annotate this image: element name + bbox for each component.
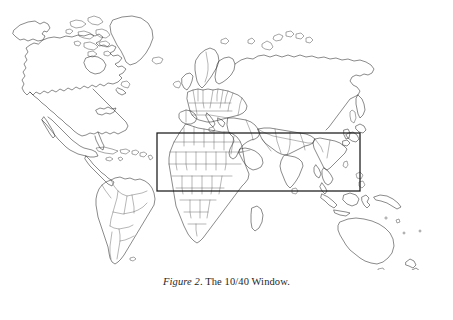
region-africa (169, 124, 263, 243)
region-greenland (110, 16, 153, 65)
region-caribbean (96, 147, 153, 161)
region-europe (173, 48, 247, 132)
region-northern-asia (221, 31, 374, 146)
world-map-figure (0, 0, 453, 270)
region-south-america (96, 177, 155, 264)
figure-page: Figure 2. The 10/40 Window. (0, 0, 453, 320)
figure-caption-text: The 10/40 Window. (203, 276, 290, 287)
region-iceland (152, 57, 163, 64)
region-north-america (13, 21, 130, 186)
region-oceania (321, 172, 421, 270)
world-map-svg (0, 0, 453, 270)
figure-caption: Figure 2. The 10/40 Window. (0, 276, 453, 287)
figure-number-label: Figure 2 (163, 276, 200, 287)
